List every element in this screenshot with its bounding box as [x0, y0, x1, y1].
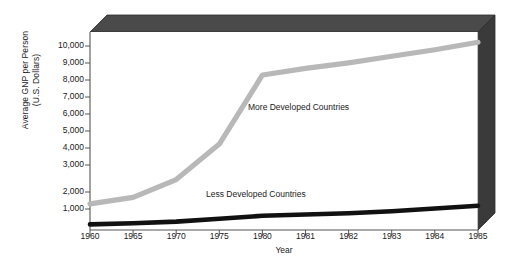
- y-tick-label: 10,000: [38, 41, 84, 50]
- x-tick-label: 1975: [210, 231, 229, 241]
- x-tick-label: 1981: [296, 231, 315, 241]
- x-tick-label: 1982: [339, 231, 358, 241]
- y-axis-ticks: [85, 46, 90, 209]
- y-tick-label: 4,000: [38, 143, 84, 152]
- x-axis-tick-label-group: 1960 1965 1970 1975 1980 1981 1982 1983 …: [0, 231, 516, 245]
- x-tick-label: 1984: [425, 231, 444, 241]
- x-tick-label: 1980: [253, 231, 272, 241]
- chart-right-panel-3d: [478, 15, 495, 230]
- series-label-more-developed-countries: More Developed Countries: [248, 102, 349, 112]
- plot-area-background: [90, 32, 478, 230]
- x-axis-title: Year: [275, 245, 292, 255]
- y-tick-label: 8,000: [38, 75, 84, 84]
- series-label-less-developed-countries: Less Developed Countries: [206, 189, 306, 199]
- x-tick-label: 1983: [382, 231, 401, 241]
- x-tick-label: 1965: [124, 231, 143, 241]
- x-tick-label: 1985: [469, 231, 488, 241]
- y-tick-label: 1,000: [38, 204, 84, 213]
- x-tick-label: 1970: [167, 231, 186, 241]
- gnp-per-person-line-chart: Average GNP per Person (U.S. Dollars) 10…: [0, 0, 516, 273]
- x-tick-label: 1960: [81, 231, 100, 241]
- y-tick-label: 5,000: [38, 126, 84, 135]
- y-tick-label: 2,000: [38, 187, 84, 196]
- chart-top-panel-3d: [90, 15, 495, 32]
- y-tick-label: 7,000: [38, 92, 84, 101]
- y-tick-label: 3,000: [38, 160, 84, 169]
- y-tick-label: 6,000: [38, 109, 84, 118]
- y-tick-label: 9,000: [38, 58, 84, 67]
